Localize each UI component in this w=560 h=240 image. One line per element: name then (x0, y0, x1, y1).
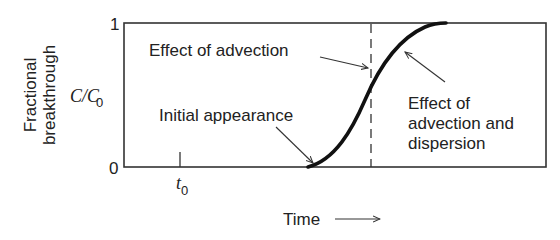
y-tick-0: 0 (109, 159, 118, 178)
y-axis-label-line1: Fractional (21, 58, 40, 133)
annotation-initial-appearance: Initial appearance (159, 106, 293, 125)
breakthrough-diagram: Fractional breakthrough C/C 0 1 0 t 0 Ef… (0, 0, 560, 240)
y-tick-1: 1 (110, 15, 119, 34)
y-axis-label-line2: breakthrough (40, 45, 59, 145)
advection-arrow (320, 57, 368, 68)
annotation-dispersion-line3: dispersion (408, 134, 486, 153)
x-tick-t0-sub: 0 (181, 183, 188, 198)
dispersion-arrow (405, 52, 445, 82)
annotation-dispersion-line2: advection and (408, 114, 514, 133)
annotation-effect-of-advection: Effect of advection (149, 41, 289, 60)
y-symbol-sub: 0 (96, 95, 103, 110)
annotation-dispersion-line1: Effect of (408, 94, 470, 113)
initial-appearance-arrow (276, 127, 313, 163)
x-axis-label: Time (283, 210, 320, 229)
